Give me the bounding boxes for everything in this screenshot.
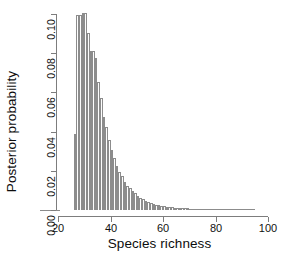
y-axis-tick-label: 0.08 [46, 54, 57, 84]
histogram-figure: Posterior probability Species richness 0… [0, 0, 283, 263]
x-axis-tick-label: 60 [157, 222, 169, 234]
y-axis-tick-label: 0.06 [46, 93, 57, 123]
y-axis-title: Posterior probability [0, 0, 22, 263]
plot-area [58, 10, 268, 210]
x-axis-tick-label: 40 [105, 222, 117, 234]
x-axis-title: Species richness [40, 236, 279, 251]
y-axis-tick-label: 0.10 [46, 15, 57, 45]
x-axis-tick-label: 100 [259, 222, 277, 234]
x-axis-tick-label: 20 [52, 222, 64, 234]
histogram-bars [58, 10, 268, 210]
y-axis-tick-label: 0.04 [46, 133, 57, 163]
x-axis-tick-label: 80 [210, 222, 222, 234]
y-axis-tick-label: 0.02 [46, 172, 57, 202]
histogram-bar [252, 209, 255, 210]
